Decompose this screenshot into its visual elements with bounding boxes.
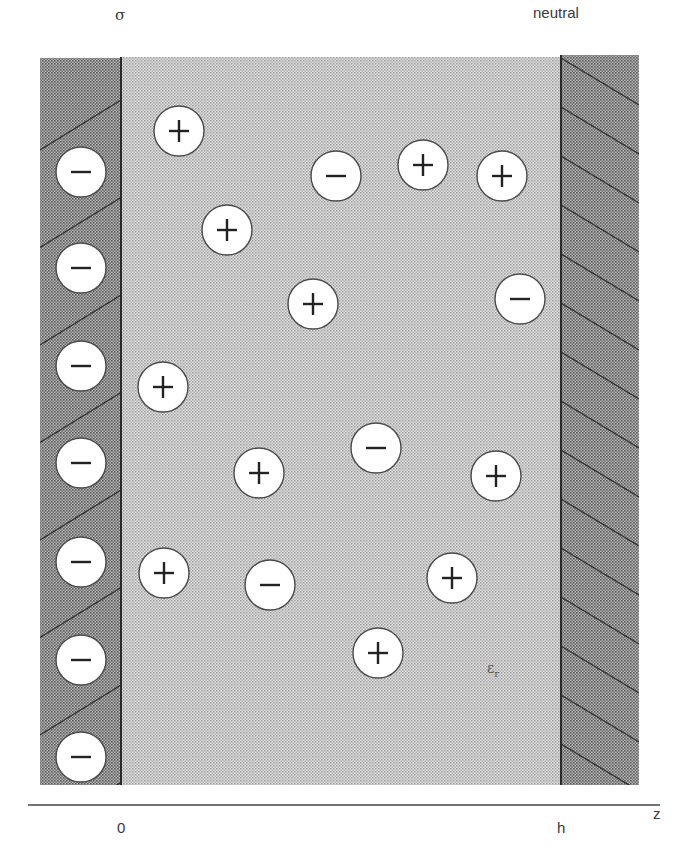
hatch-line [40, 783, 121, 833]
negative-ion [245, 560, 295, 610]
diagram: σ neutral 0 h z εr [0, 0, 684, 864]
axis-z-label: z [653, 805, 661, 822]
positive-ion [477, 151, 527, 201]
positive-ion [398, 140, 448, 190]
negative-ion [56, 243, 106, 293]
negative-ion [56, 438, 106, 488]
neutral-wall-label: neutral [533, 4, 579, 21]
negative-ion [495, 274, 545, 324]
surface-charge-label: σ [115, 6, 125, 24]
negative-ion [56, 732, 106, 782]
neutral-wall [561, 55, 639, 840]
positive-ion [202, 205, 252, 255]
diagram-canvas [0, 0, 684, 864]
negative-ion [56, 341, 106, 391]
negative-ion [56, 635, 106, 685]
negative-ion [56, 537, 106, 587]
positive-ion [139, 548, 189, 598]
permittivity-label: εr [487, 660, 499, 679]
negative-ion [351, 423, 401, 473]
hatch-line [561, 793, 639, 840]
positive-ion [427, 553, 477, 603]
positive-ion [234, 448, 284, 498]
positive-ion [154, 106, 204, 156]
axis-h-label: h [557, 819, 565, 836]
epsilon-subscript: r [494, 668, 499, 679]
negative-ion [56, 147, 106, 197]
positive-ion [288, 279, 338, 329]
positive-ion [353, 628, 403, 678]
axis-origin-label: 0 [117, 819, 125, 836]
positive-ion [471, 451, 521, 501]
positive-ion [138, 362, 188, 412]
negative-ion [311, 151, 361, 201]
